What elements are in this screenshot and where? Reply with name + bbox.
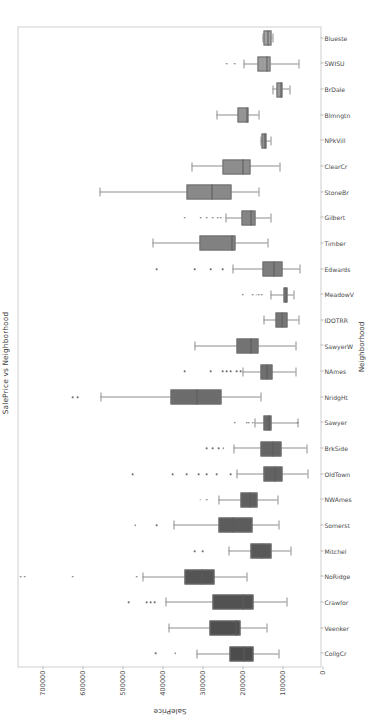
x-tick-mark [320, 242, 323, 243]
whisker-cap [272, 33, 273, 42]
x-tick-label-OldTown: OldTown [324, 470, 350, 477]
y-tick-mark [82, 666, 83, 669]
median-line [267, 30, 268, 45]
x-tick-label-Sawyer: Sawyer [324, 419, 346, 426]
x-tick-mark [320, 62, 323, 63]
whisker-cap [262, 33, 263, 42]
x-tick-label-MeadowV: MeadowV [324, 291, 354, 298]
x-tick-label-Gilbert: Gilbert [324, 214, 345, 221]
y-tick-label: 600000 [78, 666, 86, 695]
figure-canvas: SalePrice vs Neighborhood SalePrice 0100… [0, 0, 372, 725]
y-tick-label: 400000 [158, 666, 166, 695]
x-tick-label-Somerst: Somerst [324, 521, 349, 528]
x-tick-mark [320, 191, 323, 192]
x-tick-mark [320, 498, 323, 499]
x-tick-mark [320, 652, 323, 653]
x-tick-mark [320, 421, 323, 422]
x-tick-label-Veenker: Veenker [324, 624, 349, 631]
x-tick-mark [320, 139, 323, 140]
chart-screenshot: SalePrice vs Neighborhood SalePrice 0100… [0, 0, 372, 725]
x-tick-mark [320, 114, 323, 115]
x-tick-mark [320, 293, 323, 294]
x-tick-mark [320, 473, 323, 474]
x-tick-label-Mitchel: Mitchel [324, 547, 346, 554]
x-tick-label-IDOTRR: IDOTRR [324, 316, 347, 323]
x-tick-mark [320, 268, 323, 269]
y-tick-label: 200000 [238, 666, 246, 695]
y-tick-mark [162, 666, 163, 669]
x-tick-label-Crawfor: Crawfor [324, 598, 348, 605]
x-tick-label-SawyerW: SawyerW [324, 342, 352, 349]
y-tick-label: 100000 [278, 666, 286, 695]
y-axis-label: SalePrice [17, 705, 321, 717]
x-tick-label-Blmngtn: Blmngtn [324, 111, 350, 118]
x-tick-mark [320, 88, 323, 89]
x-tick-mark [320, 524, 323, 525]
x-tick-label-NPkVill: NPkVill [324, 137, 345, 144]
boxplot-group [18, 27, 320, 666]
y-tick-mark [42, 666, 43, 669]
y-tick-mark [322, 666, 323, 669]
x-tick-label-SWISU: SWISU [324, 60, 344, 67]
x-tick-mark [320, 165, 323, 166]
x-tick-mark [320, 447, 323, 448]
x-tick-mark [320, 575, 323, 576]
x-tick-label-BrkSide: BrkSide [324, 445, 347, 452]
x-tick-label-CollgCr: CollgCr [324, 650, 346, 657]
chart-title: SalePrice vs Neighborhood [0, 0, 9, 725]
y-tick-label: 700000 [38, 666, 46, 695]
x-tick-label-NWAmes: NWAmes [324, 496, 351, 503]
x-tick-label-StoneBr: StoneBr [324, 188, 348, 195]
x-tick-mark [320, 216, 323, 217]
y-tick-mark [282, 666, 283, 669]
x-tick-mark [320, 550, 323, 551]
y-tick-label: 300000 [198, 666, 206, 695]
x-axis-label: Neighborhood [356, 26, 365, 667]
x-tick-label-NoRidge: NoRidge [324, 573, 350, 580]
x-tick-label-ClearCr: ClearCr [324, 163, 347, 170]
y-tick-mark [242, 666, 243, 669]
x-tick-label-NridgHt: NridgHt [324, 393, 347, 400]
x-tick-mark [320, 396, 323, 397]
y-tick-mark [202, 666, 203, 669]
plot-axes: 0100000200000300000400000500000600000700… [17, 26, 321, 667]
y-tick-label: 500000 [118, 666, 126, 695]
x-tick-label-BrDale: BrDale [324, 86, 345, 93]
x-tick-label-Edwards: Edwards [324, 265, 350, 272]
x-tick-mark [320, 627, 323, 628]
x-tick-mark [320, 37, 323, 38]
x-tick-mark [320, 319, 323, 320]
x-tick-label-NAmes: NAmes [324, 368, 346, 375]
x-tick-label-Timber: Timber [324, 239, 345, 246]
x-tick-mark [320, 370, 323, 371]
x-tick-mark [320, 345, 323, 346]
plot-area [18, 27, 320, 666]
y-tick-mark [122, 666, 123, 669]
x-tick-label-Blueste: Blueste [324, 34, 347, 41]
x-tick-mark [320, 601, 323, 602]
